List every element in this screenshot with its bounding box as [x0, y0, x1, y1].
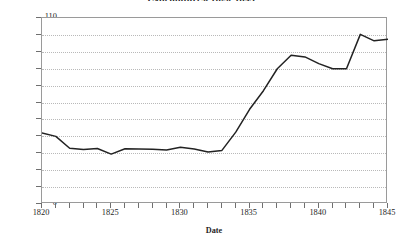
x-tick-mark	[83, 203, 84, 208]
data-series-line	[42, 18, 388, 204]
x-tick-mark	[138, 203, 139, 208]
x-tick-label: 1840	[298, 208, 338, 217]
x-tick-mark	[207, 203, 208, 208]
x-tick-label: 1845	[367, 208, 402, 217]
x-tick-label: 1820	[21, 208, 61, 217]
x-tick-label: 1825	[90, 208, 130, 217]
x-tick-mark	[69, 203, 70, 208]
x-tick-mark	[290, 203, 291, 208]
x-tick-mark	[345, 203, 346, 208]
x-tick-mark	[359, 203, 360, 208]
plot-area	[41, 17, 387, 203]
x-tick-label: 1830	[159, 208, 199, 217]
x-tick-label: 1835	[229, 208, 269, 217]
x-tick-mark	[276, 203, 277, 208]
x-tick-mark	[152, 203, 153, 208]
x-tick-mark	[221, 203, 222, 208]
x-axis-title: Date	[41, 226, 387, 235]
chart-title: Expenditures, 1820-1845	[0, 0, 402, 1]
series-polyline	[42, 34, 388, 154]
chart-figure: Expenditures, 1820-1845 Millions of doll…	[0, 0, 402, 241]
